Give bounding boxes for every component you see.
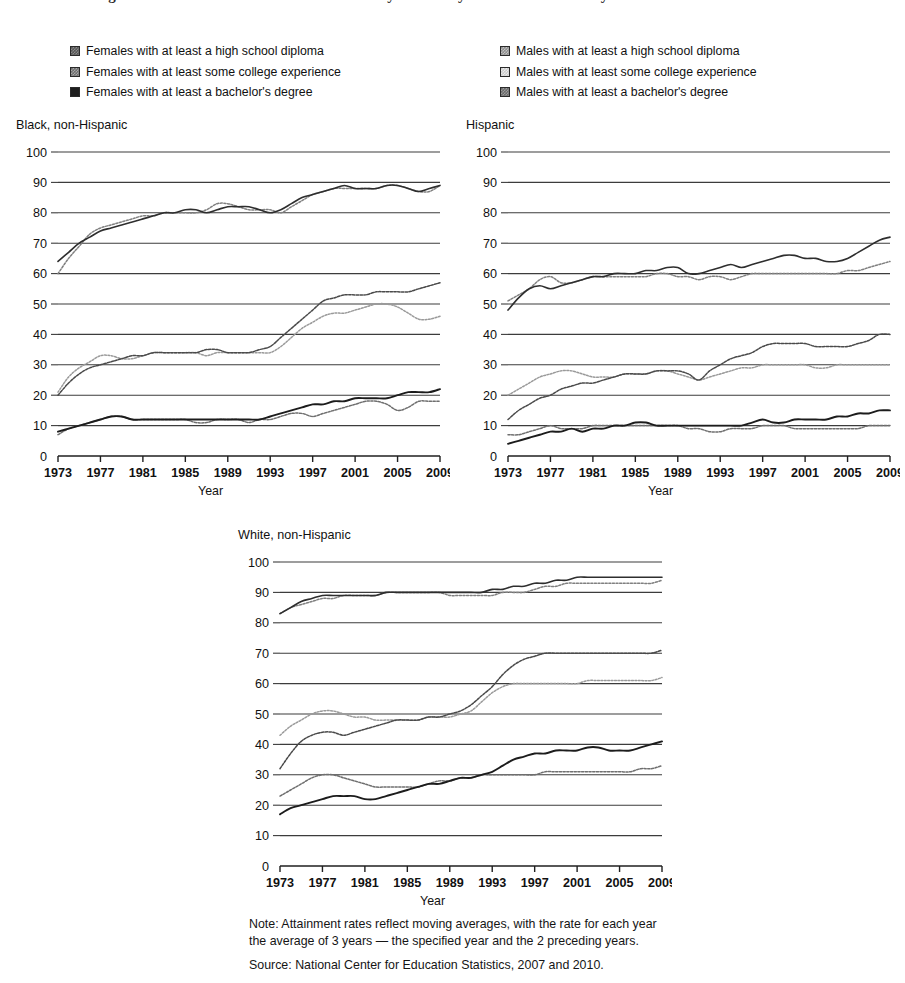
- svg-text:1989: 1989: [436, 876, 464, 888]
- series-line: [508, 334, 890, 420]
- legend-item-female-bachelors[interactable]: Females with at least a bachelor's degre…: [70, 82, 341, 103]
- chart-svg-black: 1020304050607080901000197319771981198519…: [0, 118, 450, 478]
- svg-text:1989: 1989: [664, 466, 692, 478]
- series-line: [508, 261, 890, 301]
- svg-text:100: 100: [476, 146, 497, 160]
- figure-source: Source: National Center for Education St…: [249, 957, 604, 974]
- chart-title-hispanic: Hispanic: [466, 118, 514, 132]
- svg-text:1993: 1993: [478, 876, 506, 888]
- svg-text:0: 0: [262, 860, 269, 874]
- swatch-male-high-school-icon: [500, 46, 510, 56]
- svg-text:2001: 2001: [563, 876, 591, 888]
- swatch-female-bachelors-icon: [70, 87, 80, 97]
- legend-item-male-some-college[interactable]: Males with at least some college experie…: [500, 62, 757, 83]
- note-line-1: Note: Attainment rates reflect moving av…: [249, 916, 657, 933]
- svg-text:10: 10: [33, 419, 47, 433]
- svg-text:10: 10: [483, 419, 497, 433]
- series-line: [508, 410, 890, 444]
- svg-text:2005: 2005: [834, 466, 862, 478]
- svg-text:2009: 2009: [426, 466, 450, 478]
- svg-text:50: 50: [255, 708, 269, 722]
- svg-text:1989: 1989: [214, 466, 242, 478]
- series-line: [280, 580, 662, 613]
- svg-text:80: 80: [33, 206, 47, 220]
- svg-text:1981: 1981: [351, 876, 379, 888]
- swatch-male-some-college-icon: [500, 67, 510, 77]
- legend-label: Females with at least a bachelor's degre…: [86, 82, 313, 103]
- legend-item-male-high-school[interactable]: Males with at least a high school diplom…: [500, 41, 757, 62]
- svg-text:2009: 2009: [876, 466, 900, 478]
- svg-text:100: 100: [248, 556, 269, 570]
- svg-text:30: 30: [483, 358, 497, 372]
- svg-text:1973: 1973: [44, 466, 72, 478]
- svg-text:1993: 1993: [256, 466, 284, 478]
- males-legend: Males with at least a high school diplom…: [500, 41, 757, 103]
- svg-text:40: 40: [483, 328, 497, 342]
- svg-text:60: 60: [255, 677, 269, 691]
- series-line: [58, 304, 440, 393]
- note-line-2: the average of 3 years — the specified y…: [249, 933, 657, 950]
- svg-text:2001: 2001: [341, 466, 369, 478]
- svg-text:1997: 1997: [299, 466, 327, 478]
- swatch-female-high-school-icon: [70, 46, 80, 56]
- svg-text:1993: 1993: [706, 466, 734, 478]
- figure-page: Figure 2. Educational attainment of 25- …: [0, 0, 905, 983]
- svg-text:1981: 1981: [579, 466, 607, 478]
- svg-text:40: 40: [255, 738, 269, 752]
- svg-text:20: 20: [33, 389, 47, 403]
- x-axis-label-hispanic: Year: [648, 484, 673, 498]
- svg-text:90: 90: [255, 586, 269, 600]
- svg-text:1973: 1973: [494, 466, 522, 478]
- svg-text:1977: 1977: [86, 466, 114, 478]
- svg-text:10: 10: [255, 829, 269, 843]
- svg-text:2005: 2005: [606, 876, 634, 888]
- chart-svg-white: 1020304050607080901000197319771981198519…: [222, 528, 672, 888]
- legend-label: Males with at least a high school diplom…: [516, 41, 740, 62]
- svg-text:80: 80: [483, 206, 497, 220]
- svg-text:70: 70: [483, 237, 497, 251]
- svg-text:1985: 1985: [621, 466, 649, 478]
- series-line: [280, 678, 662, 736]
- legend-label: Males with at least a bachelor's degree: [516, 82, 728, 103]
- source-line: Source: National Center for Education St…: [249, 957, 604, 974]
- svg-text:1985: 1985: [171, 466, 199, 478]
- swatch-female-some-college-icon: [70, 67, 80, 77]
- svg-text:50: 50: [483, 298, 497, 312]
- chart-panel-black-non-hispanic: Black, non-Hispanic 10203040506070809010…: [0, 118, 450, 478]
- svg-text:100: 100: [26, 146, 47, 160]
- chart-title-black: Black, non-Hispanic: [16, 118, 127, 132]
- svg-text:80: 80: [255, 616, 269, 630]
- females-legend: Females with at least a high school dipl…: [70, 41, 341, 103]
- svg-text:2001: 2001: [791, 466, 819, 478]
- series-line: [58, 283, 440, 395]
- series-line: [280, 650, 662, 769]
- svg-text:90: 90: [33, 176, 47, 190]
- svg-text:1977: 1977: [308, 876, 336, 888]
- legend-label: Females with at least a high school dipl…: [86, 41, 324, 62]
- legend-item-female-some-college[interactable]: Females with at least some college exper…: [70, 62, 341, 83]
- svg-text:70: 70: [33, 237, 47, 251]
- legend-item-male-bachelors[interactable]: Males with at least a bachelor's degree: [500, 82, 757, 103]
- legend-label: Males with at least some college experie…: [516, 62, 757, 83]
- svg-text:90: 90: [483, 176, 497, 190]
- chart-svg-hispanic: 1020304050607080901000197319771981198519…: [450, 118, 900, 478]
- chart-panel-white-non-hispanic: White, non-Hispanic 10203040506070809010…: [222, 528, 672, 888]
- svg-text:1997: 1997: [521, 876, 549, 888]
- series-line: [280, 766, 662, 796]
- svg-text:0: 0: [40, 450, 47, 464]
- legend-label: Females with at least some college exper…: [86, 62, 341, 83]
- truncated-heading-text: Figure 2. Educational attainment of 25- …: [95, 0, 682, 4]
- x-axis-label-black: Year: [198, 484, 223, 498]
- svg-text:20: 20: [483, 389, 497, 403]
- svg-text:20: 20: [255, 799, 269, 813]
- legend-item-female-high-school[interactable]: Females with at least a high school dipl…: [70, 41, 341, 62]
- svg-text:30: 30: [33, 358, 47, 372]
- svg-text:0: 0: [490, 450, 497, 464]
- truncated-heading-strip: Figure 2. Educational attainment of 25- …: [0, 0, 905, 14]
- x-axis-label-white: Year: [420, 894, 445, 908]
- series-line: [280, 741, 662, 814]
- series-line: [58, 401, 440, 435]
- series-line: [58, 185, 440, 274]
- svg-text:1977: 1977: [536, 466, 564, 478]
- svg-text:50: 50: [33, 298, 47, 312]
